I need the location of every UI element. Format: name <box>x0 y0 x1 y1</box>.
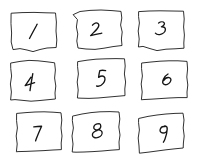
hand-drawn-grid <box>0 0 200 168</box>
grid-cell-2[interactable] <box>74 10 123 49</box>
cell-outline-1[interactable] <box>11 12 57 51</box>
cell-outline-4[interactable] <box>10 60 55 101</box>
cell-outline-3[interactable] <box>138 11 184 51</box>
grid-cell-4[interactable] <box>10 60 55 101</box>
grid-cell-3[interactable] <box>138 11 184 51</box>
sketch-canvas: 1 2 3 4 5 6 7 8 9 <box>0 0 200 168</box>
grid-cell-9[interactable] <box>138 113 184 153</box>
grid-cell-1[interactable] <box>11 12 57 51</box>
grid-cell-8[interactable] <box>72 112 120 153</box>
cell-outline-8[interactable] <box>72 112 120 153</box>
grid-cell-7[interactable] <box>16 112 62 152</box>
grid-cell-6[interactable] <box>141 61 188 100</box>
cell-outline-2[interactable] <box>74 10 123 49</box>
cell-outline-5[interactable] <box>77 59 125 99</box>
grid-cell-5[interactable] <box>77 59 125 99</box>
